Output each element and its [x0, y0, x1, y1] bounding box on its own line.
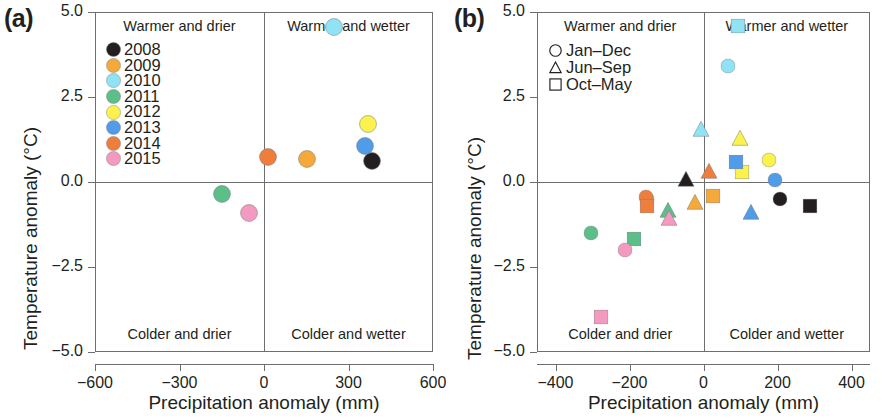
legend-item-2015[interactable]: 2015	[106, 151, 161, 167]
x-tick-label: −400	[516, 374, 596, 392]
data-point-2013-jan-dec	[767, 173, 782, 188]
data-point-2008-jan-dec	[773, 192, 788, 207]
data-point-2011	[213, 185, 231, 203]
data-point-2010-jan-dec	[721, 58, 736, 73]
x-tick-mark	[95, 364, 96, 371]
y-tick-mark	[88, 182, 95, 183]
data-point-2009-oct-may	[705, 188, 720, 203]
x-tick-mark	[704, 364, 705, 371]
x-tick-label: −200	[590, 374, 670, 392]
circle-marker-icon	[106, 58, 121, 73]
y-tick-label: 2.5	[33, 87, 83, 105]
x-tick-label: 0	[664, 374, 744, 392]
y-tick-label: 0.0	[475, 172, 525, 190]
data-point-2015-jan-dec	[618, 243, 633, 258]
data-point-2010-jun-sep	[692, 121, 709, 138]
quadrant-label-colder-drier: Colder and drier	[537, 326, 710, 342]
data-point-2015-jun-sep	[661, 209, 678, 226]
data-point-2009-jun-sep	[687, 193, 704, 210]
y-tick-mark	[88, 267, 95, 268]
panel-a: (a) Temperature anomaly (°C) 5.02.50.0−2…	[0, 0, 450, 420]
data-point-2014	[259, 148, 277, 166]
data-point-2013-oct-may	[729, 155, 744, 170]
x-tick-mark	[264, 364, 265, 371]
data-point-2015	[240, 204, 258, 222]
legend-item-oct-may[interactable]: Oct–May	[549, 76, 632, 93]
panel-b: (b) Temperature anomaly (°C) 5.02.50.0−2…	[450, 0, 882, 420]
panel-a-tag: (a)	[4, 4, 33, 33]
panel-a-y-axis-label: Temperature anomaly (°C)	[20, 127, 42, 350]
data-point-2012-jan-dec	[762, 152, 777, 167]
x-tick-label: 200	[738, 374, 818, 392]
legend-item-label: Jun–Sep	[566, 59, 631, 76]
legend-item-jun-sep[interactable]: Jun–Sep	[549, 59, 632, 76]
y-tick-label: −5.0	[475, 342, 525, 360]
circle-marker-icon	[549, 44, 562, 57]
data-point-2010	[325, 18, 343, 36]
x-tick-mark	[433, 364, 434, 371]
circle-marker-icon	[106, 73, 121, 88]
y-tick-mark	[530, 267, 537, 268]
x-tick-mark	[778, 364, 779, 371]
data-point-2012	[359, 115, 377, 133]
quadrant-label-colder-drier: Colder and drier	[95, 326, 270, 342]
data-point-2010-oct-may	[730, 19, 745, 34]
legend-item-label: Jan–Dec	[566, 42, 631, 59]
x-tick-label: 0	[224, 374, 304, 392]
x-tick-mark	[180, 364, 181, 371]
y-tick-mark	[530, 12, 537, 13]
y-tick-mark	[530, 352, 537, 353]
panel-a-x-axis-label: Precipitation anomaly (mm)	[95, 392, 433, 414]
square-marker-icon	[549, 78, 562, 91]
y-tick-label: 2.5	[475, 87, 525, 105]
data-point-2008-oct-may	[803, 199, 818, 214]
y-tick-mark	[88, 97, 95, 98]
x-tick-label: −600	[55, 374, 135, 392]
panel-b-y-axis-label: Temperature anomaly (°C)	[464, 137, 486, 360]
panel-b-x-axis-label: Precipitation anomaly (mm)	[537, 392, 870, 414]
quadrant-label-warmer-drier: Warmer and drier	[537, 18, 710, 34]
x-tick-label: 300	[309, 374, 389, 392]
quadrant-label-colder-wetter: Colder and wetter	[697, 326, 870, 342]
y-tick-mark	[530, 97, 537, 98]
x-tick-mark	[349, 364, 350, 371]
data-point-2008-jun-sep	[678, 170, 695, 187]
y-tick-label: −2.5	[475, 257, 525, 275]
y-tick-label: 5.0	[475, 2, 525, 20]
legend-item-label: Oct–May	[566, 76, 632, 93]
y-tick-label: −2.5	[33, 257, 83, 275]
circle-marker-icon	[106, 136, 121, 151]
zero-precipitation-reference-line	[264, 12, 265, 352]
circle-marker-icon	[106, 105, 121, 120]
panel-a-legend: 20082009201020112012201320142015	[106, 42, 161, 167]
legend-item-label: 2015	[124, 151, 161, 167]
data-point-2009	[298, 150, 316, 168]
circle-marker-icon	[106, 89, 121, 104]
quadrant-label-colder-wetter: Colder and wetter	[259, 326, 434, 342]
y-tick-mark	[530, 182, 537, 183]
panel-b-legend: Jan–DecJun–SepOct–May	[549, 42, 632, 93]
data-point-2015-oct-may	[594, 310, 609, 325]
circle-marker-icon	[106, 151, 121, 166]
data-point-2013-jun-sep	[742, 203, 759, 220]
circle-marker-icon	[106, 42, 121, 57]
data-point-2014-jun-sep	[700, 163, 717, 180]
y-tick-mark	[88, 12, 95, 13]
quadrant-label-warmer-wetter: Warmer and wetter	[697, 18, 870, 34]
x-tick-label: 400	[812, 374, 882, 392]
quadrant-label-warmer-drier: Warmer and drier	[95, 18, 270, 34]
figure-root: (a) Temperature anomaly (°C) 5.02.50.0−2…	[0, 0, 882, 420]
y-tick-label: 5.0	[33, 2, 83, 20]
data-point-2012-jun-sep	[731, 129, 748, 146]
x-tick-mark	[852, 364, 853, 371]
triangle-marker-icon	[549, 61, 562, 74]
y-tick-label: 0.0	[33, 172, 83, 190]
x-tick-mark	[556, 364, 557, 371]
quadrant-label-warmer-wetter: Warmer and wetter	[259, 18, 434, 34]
x-tick-mark	[630, 364, 631, 371]
zero-precipitation-reference-line	[704, 12, 705, 352]
circle-marker-icon	[106, 120, 121, 135]
legend-item-jan-dec[interactable]: Jan–Dec	[549, 42, 632, 59]
data-point-2011-jan-dec	[583, 226, 598, 241]
data-point-2013	[356, 137, 374, 155]
